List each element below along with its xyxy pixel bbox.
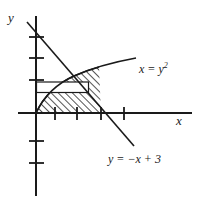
line-label: y = −x + 3 <box>108 152 161 167</box>
math-figure: y x x = y2 y = −x + 3 <box>0 0 201 206</box>
x-axis-label: x <box>176 113 182 129</box>
parabola-label-text: x = y <box>139 62 164 76</box>
figure-canvas <box>0 0 201 206</box>
parabola-label: x = y2 <box>139 61 168 77</box>
y-axis-label: y <box>8 10 14 26</box>
parabola-label-exponent: 2 <box>164 61 168 70</box>
